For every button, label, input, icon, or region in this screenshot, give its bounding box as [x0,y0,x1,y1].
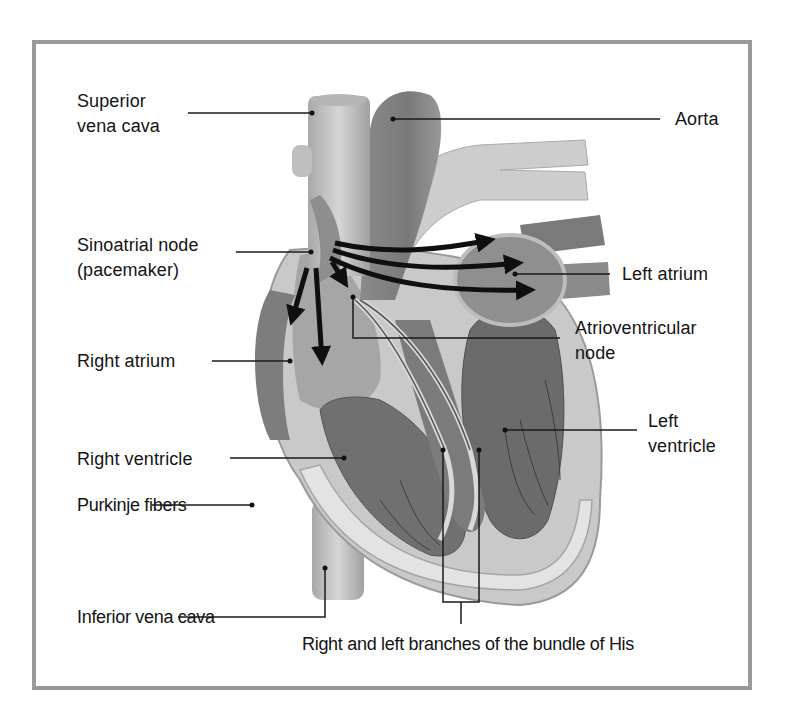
label-line: Left [648,409,716,434]
azygos-vein-stub [292,145,312,177]
label-line: ventricle [648,434,716,459]
label-left-ventricle: Left ventricle [648,409,716,459]
label-line: vena cava [77,114,160,139]
label-inferior-vena-cava: Inferior vena cava [77,605,215,630]
superior-vena-cava-opening [311,94,367,106]
label-line: Superior [77,89,160,114]
label-line: node [575,341,697,366]
label-bundle-of-his: Right and left branches of the bundle of… [302,632,634,657]
label-sinoatrial-node: Sinoatrial node (pacemaker) [77,233,199,283]
label-aorta: Aorta [675,107,719,132]
label-line: (pacemaker) [77,258,199,283]
label-line: Atrioventricular [575,316,697,341]
label-left-atrium: Left atrium [622,262,708,287]
label-line: Sinoatrial node [77,233,199,258]
label-purkinje-fibers: Purkinje fibers [77,493,187,518]
label-right-ventricle: Right ventricle [77,447,193,472]
left-atrium-shape [455,235,565,325]
label-atrioventricular-node: Atrioventricular node [575,316,697,366]
label-right-atrium: Right atrium [77,349,175,374]
label-superior-vena-cava: Superior vena cava [77,89,160,139]
